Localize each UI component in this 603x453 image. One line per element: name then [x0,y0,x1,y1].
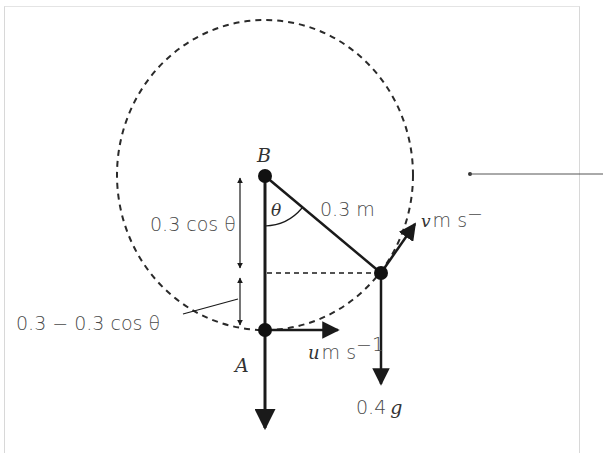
label-vertical-lower: 0.3 − 0.3 cos θ [16,312,160,334]
particle [374,266,388,280]
label-weight: 0.4g [356,396,402,418]
rod [265,176,381,273]
velocity-v-arrow [381,224,415,273]
point-B [258,169,272,183]
point-A [258,323,272,337]
label-velocity-v: vm s− [421,202,483,231]
label-theta: θ [271,200,281,220]
label-vertical-upper: 0.3 cos θ [150,213,236,235]
leader-line [183,299,238,314]
label-B: B [256,144,271,166]
label-velocity-u: um s−1 [308,333,384,363]
label-rod-length: 0.3 m [320,198,375,220]
pendulum-diagram: B A θ 0.3 m 0.3 cos θ 0.3 − 0.3 cos θ um… [0,0,603,453]
label-A: A [233,354,249,376]
